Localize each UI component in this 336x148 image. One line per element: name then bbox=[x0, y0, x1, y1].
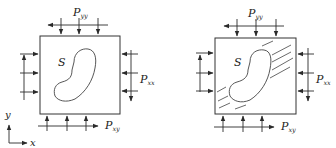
load-label-pyy: Pyy bbox=[247, 7, 263, 21]
right-load-arrows bbox=[298, 48, 314, 101]
panel-intact: Pyy Pxx Pxy S bbox=[20, 6, 155, 133]
region-label-s: S bbox=[58, 56, 66, 69]
x-axis-label: x bbox=[30, 137, 36, 148]
plate-boundary bbox=[40, 36, 120, 114]
right-load-arrows bbox=[122, 50, 138, 101]
load-label-pyy: Pyy bbox=[72, 6, 88, 20]
load-label-pxx: Pxx bbox=[139, 73, 155, 87]
bottom-load-arrows bbox=[214, 116, 274, 132]
diagram-canvas: Pyy Pxx Pxy S bbox=[0, 0, 336, 148]
left-load-arrows bbox=[20, 54, 38, 100]
plate-boundary bbox=[215, 38, 296, 114]
coordinate-axes: y x bbox=[4, 109, 36, 148]
top-load-arrows bbox=[224, 19, 284, 36]
region-label-s: S bbox=[234, 56, 242, 69]
load-label-pxy: Pxy bbox=[104, 119, 120, 133]
y-axis-label: y bbox=[4, 109, 11, 120]
load-label-pxy: Pxy bbox=[280, 120, 296, 134]
bottom-load-arrows bbox=[38, 116, 98, 131]
panel-cracked: Pyy Pxx Pxy S bbox=[196, 7, 331, 134]
load-label-pxx: Pxx bbox=[315, 73, 331, 87]
left-load-arrows bbox=[196, 53, 213, 92]
top-load-arrows bbox=[48, 18, 108, 34]
